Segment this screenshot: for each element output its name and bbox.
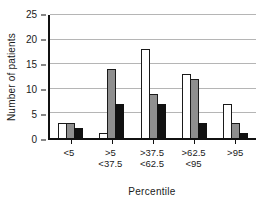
x-category-label-line: >37.5 [131,147,173,158]
bar-chart-figure: Number of patients 0510152025 <5>5<37.5>… [0,0,262,207]
bar-group-3 [132,15,173,138]
x-tick-mark-5 [235,140,236,144]
x-category-label-line: >95 [214,147,256,158]
y-axis: 0510152025 [0,15,47,140]
x-category-label-line: >62.5 [173,147,215,158]
x-tick-mark-1 [71,140,72,144]
x-axis-title: Percentile [48,186,256,197]
bar-groups [50,15,256,138]
y-tick-mark-15 [41,65,46,66]
bar-black-group-4 [198,123,207,138]
x-category-label-line: <5 [48,147,90,158]
bar-black-group-2 [115,104,124,138]
bar-black-group-5 [239,133,248,138]
x-tick-mark-2 [112,140,113,144]
y-tick-label-15: 15 [26,60,37,70]
bar-group-1 [50,15,91,138]
y-tick-mark-25 [41,15,46,16]
plot-area [48,15,256,140]
y-tick-mark-0 [41,140,46,141]
y-tick-mark-10 [41,90,46,91]
y-tick-mark-5 [41,115,46,116]
x-category-label-line: <37.5 [90,158,132,169]
bar-group-4 [174,15,215,138]
x-category-label-3: >37.5<62.5 [131,147,173,169]
bar-group-5 [215,15,256,138]
y-tick-mark-20 [41,40,46,41]
x-category-label-line: >5 [90,147,132,158]
x-tick-mark-3 [153,140,154,144]
x-category-label-2: >5<37.5 [90,147,132,169]
x-axis-category-labels: <5>5<37.5>37.5<62.5>62.5<95>95 [48,147,256,169]
y-tick-label-0: 0 [31,135,37,145]
y-tick-label-10: 10 [26,85,37,95]
x-category-label-5: >95 [214,147,256,169]
x-category-label-line: <62.5 [131,158,173,169]
x-category-label-line: <95 [173,158,215,169]
y-tick-label-20: 20 [26,35,37,45]
x-category-label-1: <5 [48,147,90,169]
x-category-label-4: >62.5<95 [173,147,215,169]
y-tick-label-25: 25 [26,10,37,20]
bar-group-2 [91,15,132,138]
x-tick-mark-4 [194,140,195,144]
y-tick-label-5: 5 [31,110,37,120]
bar-black-group-3 [157,104,166,138]
bar-black-group-1 [74,128,83,138]
